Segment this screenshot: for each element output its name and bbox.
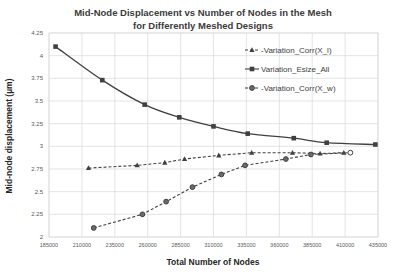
x-tick-label: 185000	[40, 242, 58, 248]
circle-marker	[283, 157, 288, 162]
y-tick-label: 4	[40, 53, 44, 59]
x-tick-label: 385000	[303, 242, 321, 248]
x-tick-label: 210000	[73, 242, 91, 248]
circle-marker	[308, 152, 313, 157]
y-tick-label: 2.25	[31, 211, 43, 217]
square-marker	[324, 140, 329, 145]
circle-marker	[190, 185, 195, 190]
legend-item: Variation_Esize_All	[245, 65, 330, 74]
y-tick-label: 4.25	[31, 30, 43, 36]
y-tick-label: 2.75	[31, 166, 43, 172]
series-circle	[91, 150, 352, 230]
circle-marker	[140, 212, 145, 217]
x-tick-label: 410000	[336, 242, 354, 248]
square-marker	[142, 102, 147, 107]
x-tick-label: 310000	[204, 242, 222, 248]
circle-marker	[250, 86, 255, 91]
y-tick-label: 3.75	[31, 75, 43, 81]
circle-marker	[164, 199, 169, 204]
triangle-marker	[162, 160, 167, 165]
triangle-marker	[182, 156, 187, 161]
legend-label: -Variation_Corr(X_w)	[261, 84, 336, 93]
x-tick-label: 260000	[139, 242, 157, 248]
legend-item: -Variation_Corr(X_w)	[245, 84, 336, 93]
x-axis-ticks: 1850002100002350002600002850003100003350…	[40, 242, 387, 248]
circle-marker	[219, 172, 224, 177]
square-marker	[211, 124, 216, 129]
y-axis-ticks: 22.252.52.7533.253.53.7544.25	[31, 30, 43, 240]
triangle-marker	[341, 150, 346, 155]
square-marker	[291, 136, 296, 141]
square-marker	[373, 142, 378, 147]
legend-label: Variation_Esize_All	[261, 65, 330, 74]
legend-label: -Variation_Corr(X_l)	[261, 46, 332, 55]
x-tick-label: 360000	[270, 242, 288, 248]
x-tick-label: 435000	[369, 242, 387, 248]
y-tick-label: 3	[40, 143, 44, 149]
circle-marker	[243, 163, 248, 168]
square-marker	[245, 131, 250, 136]
x-axis-title: Total Number of Nodes	[167, 257, 260, 267]
square-marker	[100, 78, 105, 83]
y-tick-label: 2	[40, 234, 44, 240]
square-marker	[250, 67, 255, 72]
x-tick-label: 285000	[171, 242, 189, 248]
y-tick-label: 3.5	[35, 98, 44, 104]
legend: -Variation_Corr(X_l)Variation_Esize_All-…	[245, 46, 336, 93]
square-marker	[53, 44, 58, 49]
series-line	[56, 47, 376, 145]
gridlines	[49, 33, 378, 237]
series-triangle	[86, 150, 347, 170]
x-tick-label: 235000	[106, 242, 124, 248]
x-tick-label: 335000	[237, 242, 255, 248]
line-chart: 22.252.52.7533.253.53.7544.25 1850002100…	[0, 0, 406, 276]
y-tick-label: 3.25	[31, 121, 43, 127]
legend-item: -Variation_Corr(X_l)	[245, 46, 332, 55]
circle-marker	[348, 150, 353, 155]
circle-marker	[91, 226, 96, 231]
square-marker	[177, 115, 182, 120]
y-tick-label: 2.5	[35, 189, 44, 195]
y-axis-title: Mid-node displacement (µm)	[4, 78, 14, 193]
series-square	[53, 44, 377, 147]
